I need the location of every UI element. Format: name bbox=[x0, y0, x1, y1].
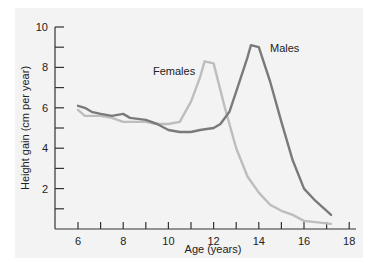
y-tick-label: 4 bbox=[42, 142, 48, 154]
y-tick-label: 10 bbox=[36, 21, 48, 33]
y-tick-label: 6 bbox=[42, 102, 48, 114]
y-axis-title: Height gain (cm per year) bbox=[19, 66, 31, 190]
x-tick-label: 8 bbox=[120, 235, 126, 247]
females-line bbox=[78, 61, 331, 224]
x-axis-title: Age (years) bbox=[185, 243, 242, 255]
x-tick-label: 16 bbox=[298, 235, 310, 247]
males-label: Males bbox=[270, 42, 300, 54]
females-label: Females bbox=[153, 65, 196, 77]
x-tick-label: 18 bbox=[343, 235, 355, 247]
x-tick-label: 14 bbox=[253, 235, 265, 247]
x-tick-label: 10 bbox=[162, 235, 174, 247]
series-lines bbox=[78, 45, 331, 224]
males-line bbox=[78, 45, 331, 215]
x-tick-label: 6 bbox=[75, 235, 81, 247]
y-tick-label: 8 bbox=[42, 61, 48, 73]
axes: 246810681012141618 bbox=[36, 21, 356, 247]
height-velocity-chart: 246810681012141618 Height gain (cm per y… bbox=[0, 0, 376, 278]
y-tick-label: 2 bbox=[42, 183, 48, 195]
